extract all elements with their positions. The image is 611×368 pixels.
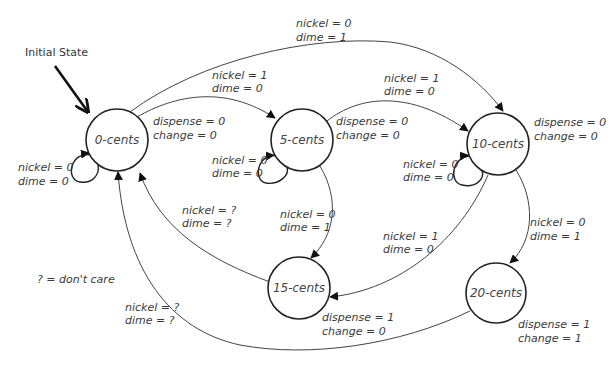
edge-0-to-10-label-1: nickel = 0 [296,17,351,30]
edge-5-to-15-label-2: dime = 1 [280,221,331,234]
edge-0-to-10-label-2: dime = 1 [296,31,347,44]
state-15-cents: 15-cents [268,257,330,319]
state-5-loop-label-2: dime = 0 [212,167,263,180]
state-5-cents: 5-cents [271,109,333,171]
state-0-label: 0-cents [95,133,140,147]
state-5-output-1: dispense = 0 [336,115,408,128]
state-10-output-1: dispense = 0 [534,116,606,129]
initial-state-label: Initial State [25,46,88,59]
edge-20-to-0-label-2: dime = ? [125,314,175,327]
state-diagram: Initial State ? = don't care nickel = 0 … [0,0,611,368]
state-10-label: 10-cents [472,137,524,151]
state-20-cents: 20-cents [466,263,526,323]
state-15-output-2: change = 0 [322,325,386,338]
state-10-loop-label-2: dime = 0 [403,171,454,184]
edge-5-to-10-label-2: dime = 0 [384,85,435,98]
edge-10-to-20-label-1: nickel = 0 [530,216,585,229]
state-0-output-2: change = 0 [153,129,217,142]
state-0-output-1: dispense = 0 [153,115,225,128]
legend-dont-care: ? = don't care [37,273,115,286]
state-5-label: 5-cents [280,133,325,147]
state-20-output-2: change = 1 [518,332,582,345]
state-10-loop-label-1: nickel = 0 [403,158,458,171]
state-15-label: 15-cents [273,281,325,295]
edge-10-to-20-label-2: dime = 1 [530,230,581,243]
state-20-output-1: dispense = 1 [518,318,590,331]
edge-15-to-0-label-1: nickel = ? [182,204,236,217]
state-20-label: 20-cents [470,286,522,300]
edge-0-to-10 [130,41,503,112]
edge-10-to-15-label-1: nickel = 1 [383,230,438,243]
edge-15-to-0-label-2: dime = ? [182,217,232,230]
edge-10-to-15-label-2: dime = 0 [383,243,434,256]
initial-state-pointer: Initial State [25,46,88,112]
state-5-output-2: change = 0 [336,129,400,142]
initial-arrow-icon [55,66,88,112]
state-5-loop-label-1: nickel = 0 [212,154,267,167]
edge-10-to-20 [510,170,530,263]
edge-0-to-5-label-1: nickel = 1 [212,69,267,82]
state-0-loop-label-2: dime = 0 [18,175,69,188]
edge-0-to-5-label-2: dime = 0 [212,82,263,95]
state-10-cents: 10-cents [467,113,529,175]
state-15-output-1: dispense = 1 [322,311,394,324]
state-0-loop-label-1: nickel = 0 [18,161,73,174]
edge-5-to-10-label-1: nickel = 1 [384,72,439,85]
edge-20-to-0-label-1: nickel = ? [125,301,179,314]
state-10-output-2: change = 0 [534,130,598,143]
state-0-cents: 0-cents [86,109,148,171]
edge-5-to-15-label-1: nickel = 0 [280,208,335,221]
